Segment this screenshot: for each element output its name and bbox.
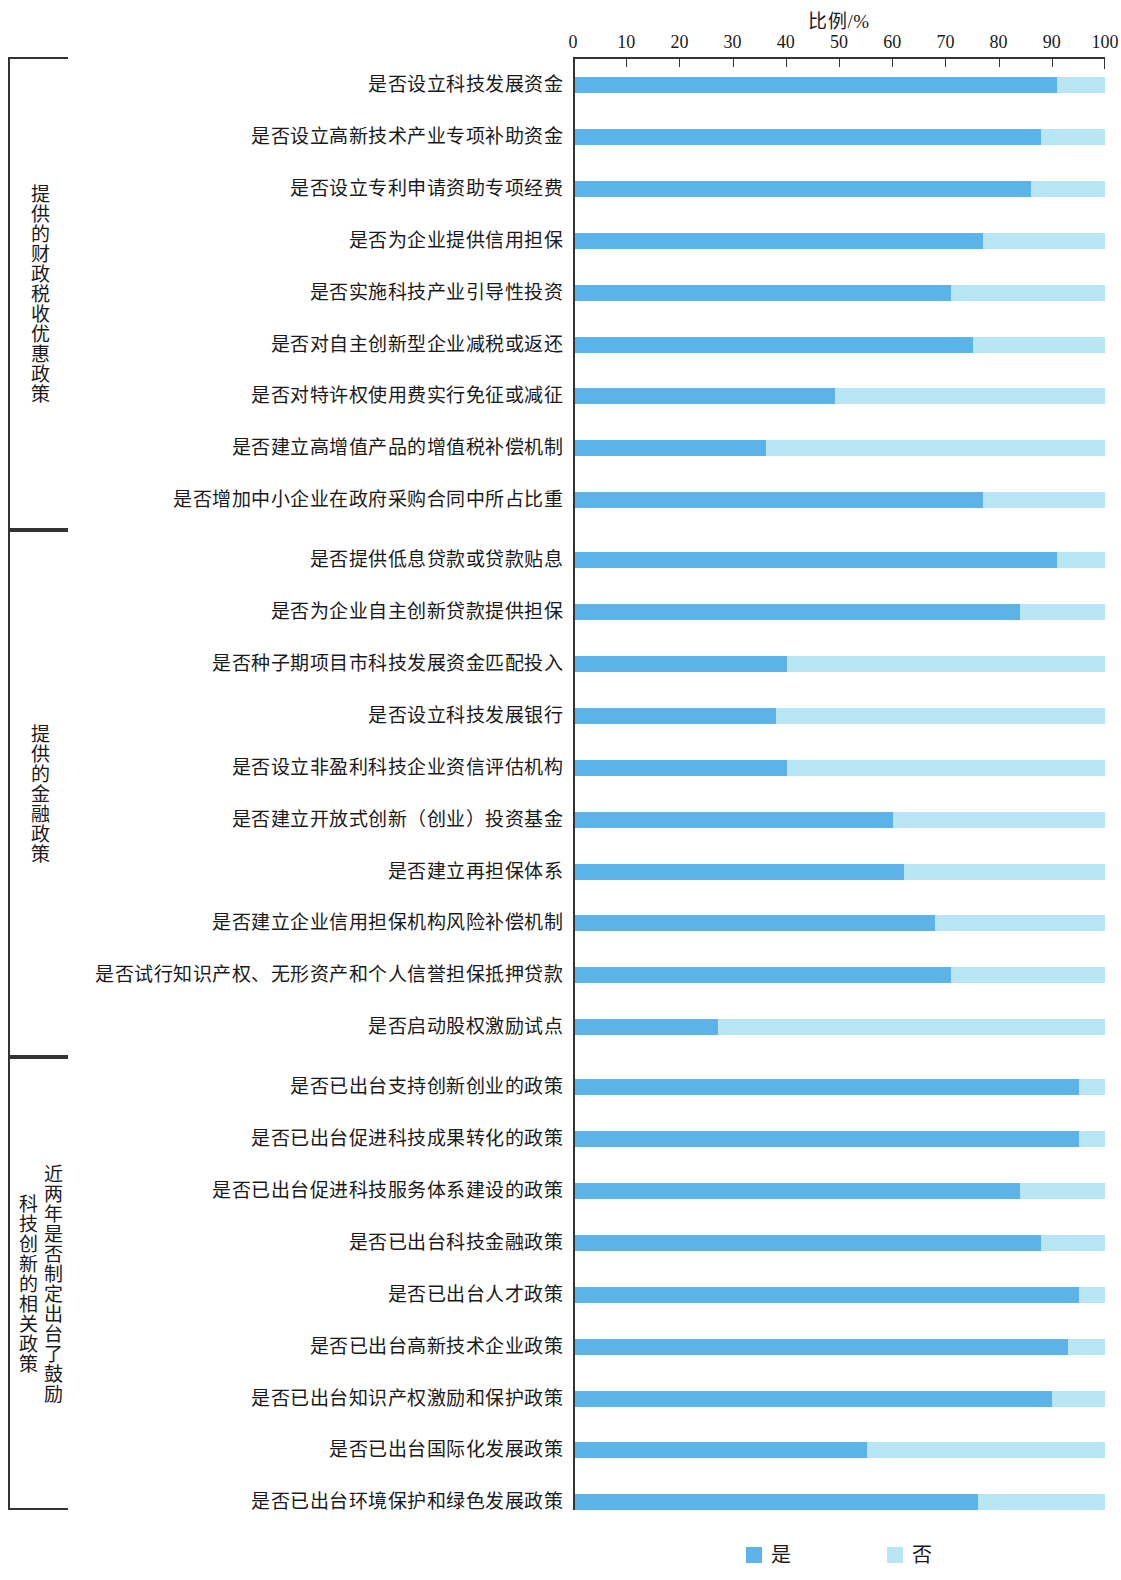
bar-track — [575, 1183, 1105, 1199]
bar-track — [575, 1339, 1105, 1355]
legend-label: 是 — [771, 1545, 791, 1565]
x-tick-label-100: 100 — [1092, 32, 1119, 53]
bar-row-label: 是否已出台促进科技服务体系建设的政策 — [70, 1178, 563, 1204]
bar-row-label: 是否增加中小企业在政府采购合同中所占比重 — [70, 487, 563, 513]
bar-segment-yes — [575, 1391, 1052, 1407]
bar-row: 是否为企业自主创新贷款提供担保 — [0, 599, 1121, 625]
bar-segment-yes — [575, 1442, 867, 1458]
bar-segment-yes — [575, 337, 973, 353]
bar-segment-yes — [575, 812, 893, 828]
x-tick-label-10: 10 — [617, 32, 635, 53]
bar-segment-yes — [575, 440, 766, 456]
bar-track — [575, 77, 1105, 93]
bar-row-label: 是否已出台环境保护和绿色发展政策 — [70, 1489, 563, 1515]
bar-row: 是否已出台科技金融政策 — [0, 1230, 1121, 1256]
bar-row: 是否设立高新技术产业专项补助资金 — [0, 124, 1121, 150]
bar-row-label: 是否建立开放式创新（创业）投资基金 — [70, 807, 563, 833]
bar-segment-no — [787, 760, 1105, 776]
bar-segment-no — [766, 440, 1105, 456]
bar-segment-no — [867, 1442, 1106, 1458]
bar-row: 是否建立再担保体系 — [0, 859, 1121, 885]
bar-row: 是否种子期项目市科技发展资金匹配投入 — [0, 651, 1121, 677]
legend-item[interactable]: 是 — [746, 1545, 791, 1565]
bar-segment-yes — [575, 1339, 1068, 1355]
bar-segment-no — [893, 812, 1105, 828]
bar-row-label: 是否已出台国际化发展政策 — [70, 1437, 563, 1463]
bar-segment-yes — [575, 285, 951, 301]
x-axis-tick-labels: 0102030405060708090100 — [573, 32, 1105, 54]
x-tick-label-0: 0 — [569, 32, 578, 53]
bar-row-label: 是否已出台科技金融政策 — [70, 1230, 563, 1256]
bar-row-label: 是否已出台支持创新创业的政策 — [70, 1074, 563, 1100]
bar-track — [575, 1287, 1105, 1303]
bar-track — [575, 915, 1105, 931]
bar-row-label: 是否已出台促进科技成果转化的政策 — [70, 1126, 563, 1152]
bar-row: 是否对特许权使用费实行免征或减征 — [0, 383, 1121, 409]
legend-swatch-yes-icon — [746, 1547, 762, 1563]
x-tick-label-20: 20 — [670, 32, 688, 53]
bar-row: 是否建立高增值产品的增值税补偿机制 — [0, 435, 1121, 461]
bar-track — [575, 233, 1105, 249]
bar-segment-yes — [575, 708, 776, 724]
bar-row-label: 是否种子期项目市科技发展资金匹配投入 — [70, 651, 563, 677]
bar-row-label: 是否建立再担保体系 — [70, 859, 563, 885]
x-axis-title: 比例/% — [573, 6, 1105, 33]
bar-row: 是否实施科技产业引导性投资 — [0, 280, 1121, 306]
bar-segment-no — [983, 492, 1105, 508]
bar-segment-no — [983, 233, 1105, 249]
bar-row-label: 是否设立科技发展银行 — [70, 703, 563, 729]
bar-row-label: 是否为企业自主创新贷款提供担保 — [70, 599, 563, 625]
bar-track — [575, 812, 1105, 828]
bar-row: 是否已出台环境保护和绿色发展政策 — [0, 1489, 1121, 1515]
x-tick-label-60: 60 — [883, 32, 901, 53]
bar-track — [575, 864, 1105, 880]
bar-segment-yes — [575, 1019, 718, 1035]
bar-row-label: 是否已出台人才政策 — [70, 1282, 563, 1308]
bar-track — [575, 604, 1105, 620]
bar-row: 是否提供低息贷款或贷款贴息 — [0, 547, 1121, 573]
bar-segment-no — [1068, 1339, 1105, 1355]
bar-track — [575, 1494, 1105, 1510]
legend-item[interactable]: 否 — [887, 1545, 932, 1565]
bar-segment-yes — [575, 552, 1057, 568]
bar-segment-yes — [575, 233, 983, 249]
bar-row-label: 是否建立高增值产品的增值税补偿机制 — [70, 435, 563, 461]
bar-track — [575, 129, 1105, 145]
bar-segment-yes — [575, 1287, 1079, 1303]
legend-label: 否 — [912, 1545, 932, 1565]
bar-segment-yes — [575, 181, 1031, 197]
bar-track — [575, 1019, 1105, 1035]
bar-segment-yes — [575, 1131, 1079, 1147]
bar-segment-no — [1079, 1079, 1106, 1095]
bar-segment-no — [1031, 181, 1105, 197]
bar-track — [575, 388, 1105, 404]
bar-track — [575, 1079, 1105, 1095]
bar-track — [575, 285, 1105, 301]
bar-row: 是否已出台人才政策 — [0, 1282, 1121, 1308]
bar-segment-no — [935, 915, 1105, 931]
bar-row: 是否对自主创新型企业减税或返还 — [0, 332, 1121, 358]
bar-segment-no — [1041, 129, 1105, 145]
bar-track — [575, 1131, 1105, 1147]
bar-track — [575, 708, 1105, 724]
bar-track — [575, 967, 1105, 983]
bar-row: 是否建立开放式创新（创业）投资基金 — [0, 807, 1121, 833]
x-tick-label-40: 40 — [777, 32, 795, 53]
bar-row: 是否已出台促进科技成果转化的政策 — [0, 1126, 1121, 1152]
bar-segment-yes — [575, 915, 935, 931]
bar-segment-no — [1057, 552, 1105, 568]
bar-row: 是否已出台知识产权激励和保护政策 — [0, 1386, 1121, 1412]
bar-track — [575, 760, 1105, 776]
bar-track — [575, 1235, 1105, 1251]
bar-row-label: 是否已出台知识产权激励和保护政策 — [70, 1386, 563, 1412]
stacked-bar-chart: 比例/% 0102030405060708090100 提供的财政税收优惠政策提… — [0, 0, 1121, 1580]
bar-row-label: 是否启动股权激励试点 — [70, 1014, 563, 1040]
bar-track — [575, 1442, 1105, 1458]
bar-row-label: 是否对特许权使用费实行免征或减征 — [70, 383, 563, 409]
bar-segment-yes — [575, 1183, 1020, 1199]
bar-row: 是否试行知识产权、无形资产和个人信誉担保抵押贷款 — [0, 962, 1121, 988]
bar-segment-no — [776, 708, 1105, 724]
bar-row: 是否设立科技发展银行 — [0, 703, 1121, 729]
bar-segment-no — [718, 1019, 1105, 1035]
x-tick-label-90: 90 — [1043, 32, 1061, 53]
